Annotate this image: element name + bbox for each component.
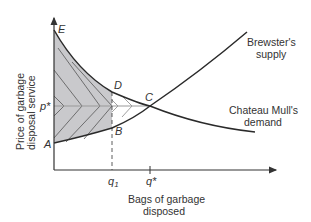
point-label-a: A	[43, 138, 51, 150]
q1-subscript: 1	[114, 180, 118, 189]
q1-label: q1	[108, 175, 119, 189]
price-label: p*	[39, 100, 51, 112]
point-label-b: B	[115, 125, 122, 137]
x-axis-label-line2: disposed	[143, 205, 185, 217]
supply-label-line1: Brewster's	[247, 36, 296, 48]
qstar-label: q*	[146, 175, 157, 187]
supply-label-line2: supply	[256, 48, 287, 60]
demand-label-line1: Chateau Mull's	[229, 104, 298, 116]
x-axis-label-line1: Bags of garbage	[128, 193, 205, 205]
point-label-d: D	[114, 79, 122, 91]
y-axis-label-line2: disposal service	[25, 75, 37, 150]
demand-label-line2: demand	[244, 116, 282, 128]
point-label-e: E	[58, 23, 66, 35]
supply-demand-diagram: E D C B A p* q1 q* Bags of garbage dispo…	[0, 0, 311, 222]
point-label-c: C	[145, 91, 153, 103]
